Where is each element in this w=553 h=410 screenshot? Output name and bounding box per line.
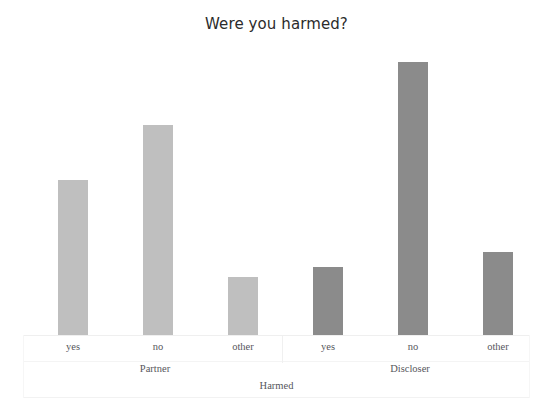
plot-area [23, 40, 530, 335]
category-tick-band: yesnootheryesnoother [23, 335, 530, 362]
bar-partner-other [228, 277, 258, 335]
bar-chart: Were you harmed? yesnootheryesnoother Pa… [0, 0, 553, 410]
frame-left-edge [23, 335, 24, 398]
bar-discloser-no [398, 62, 428, 335]
tick-label: no [368, 341, 458, 352]
frame-right-edge [529, 335, 530, 398]
group-label-discloser: Discloser [320, 363, 500, 374]
x-axis-band: Harmed [23, 378, 530, 398]
tick-label: yes [283, 341, 373, 352]
bar-discloser-yes [313, 267, 343, 335]
x-axis-title: Harmed [23, 380, 530, 391]
group-label-partner: Partner [65, 363, 245, 374]
bar-partner-yes [58, 180, 88, 335]
tick-label: other [198, 341, 288, 352]
tick-label: yes [28, 341, 118, 352]
tick-label: no [113, 341, 203, 352]
chart-title: Were you harmed? [0, 15, 553, 33]
bar-discloser-other [483, 252, 513, 335]
bar-partner-no [143, 125, 173, 335]
